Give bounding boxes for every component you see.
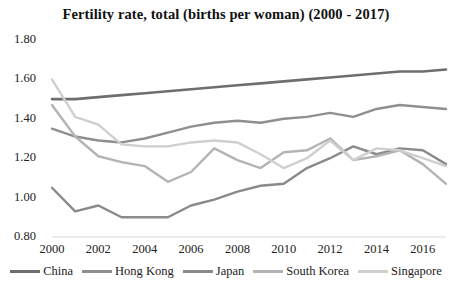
- legend-color-swatch: [358, 270, 388, 273]
- y-tick-label: 1.80: [14, 32, 36, 47]
- y-tick-label: 1.20: [14, 150, 36, 165]
- legend-color-swatch: [82, 270, 112, 273]
- series-line-south-korea: [52, 105, 446, 184]
- series-line-china: [52, 70, 446, 100]
- x-tick-label: 2010: [262, 242, 306, 257]
- legend-label: South Korea: [286, 264, 349, 279]
- x-tick-label: 2012: [308, 242, 352, 257]
- legend-color-swatch: [253, 270, 283, 273]
- legend-color-swatch: [10, 270, 40, 273]
- x-tick-label: 2002: [76, 242, 120, 257]
- y-tick-label: 1.60: [14, 71, 36, 86]
- x-tick-label: 2016: [401, 242, 445, 257]
- legend-label: Singapore: [391, 264, 442, 279]
- legend-item-china[interactable]: China: [10, 264, 73, 279]
- legend-label: Hong Kong: [115, 264, 174, 279]
- legend-item-south-korea[interactable]: South Korea: [253, 264, 349, 279]
- x-tick-label: 2008: [215, 242, 259, 257]
- legend-item-singapore[interactable]: Singapore: [358, 264, 442, 279]
- legend-item-japan[interactable]: Japan: [183, 264, 244, 279]
- y-tick-label: 1.40: [14, 111, 36, 126]
- x-tick-label: 2006: [169, 242, 213, 257]
- legend-label: China: [43, 264, 73, 279]
- y-tick-label: 1.00: [14, 190, 36, 205]
- legend-label: Japan: [216, 264, 244, 279]
- legend-item-hong-kong[interactable]: Hong Kong: [82, 264, 174, 279]
- x-tick-label: 2004: [123, 242, 167, 257]
- x-tick-label: 2000: [30, 242, 74, 257]
- fertility-rate-line-chart: Fertility rate, total (births per woman)…: [0, 0, 452, 301]
- x-tick-label: 2014: [354, 242, 398, 257]
- chart-legend: ChinaHong KongJapanSouth KoreaSingapore: [0, 264, 452, 279]
- legend-color-swatch: [183, 270, 213, 273]
- series-line-japan: [52, 146, 446, 217]
- figure-bottom-margin: [0, 292, 452, 301]
